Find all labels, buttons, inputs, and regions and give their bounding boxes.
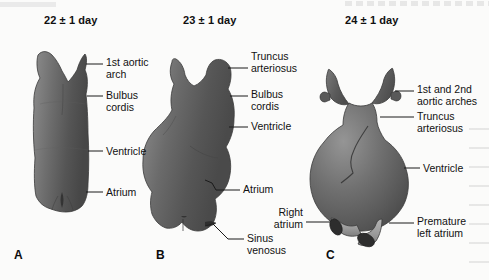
label-premature-left-atrium: Premature left atrium — [417, 216, 466, 239]
label-bulbus-cordis-b: Bulbus cordis — [251, 89, 283, 112]
leader-b-sinus-venosus — [213, 224, 244, 239]
label-bulbus-cordis-a: Bulbus cordis — [106, 90, 138, 113]
leader-b-atrium — [205, 180, 240, 190]
label-atrium-a: Atrium — [106, 187, 136, 199]
embryonic-heart-development-figure: 22 ± 1 day A 1st aortic arch Bulbus cord… — [0, 0, 489, 280]
label-ventricle-b: Ventricle — [251, 121, 291, 133]
panel-a-letter: A — [14, 248, 23, 262]
panel-b-artwork — [143, 59, 234, 231]
label-right-atrium: Right atrium — [251, 207, 303, 230]
heart-illustrations — [0, 0, 489, 280]
scan-artifact-right-column — [469, 120, 489, 275]
label-sinus-venosus-b: Sinus venosus — [247, 233, 286, 256]
panel-b-letter: B — [156, 248, 165, 262]
label-1st-and-2nd-aortic-arches: 1st and 2nd aortic arches — [417, 84, 477, 107]
panel-a-title: 22 ± 1 day — [44, 14, 98, 26]
label-truncus-arteriosus-b: Truncus arteriosus — [251, 51, 297, 74]
panel-c-artwork — [310, 68, 408, 249]
scan-artifact-top-left — [0, 2, 56, 7]
label-ventricle-a: Ventricle — [106, 146, 146, 158]
panel-b-title: 23 ± 1 day — [183, 14, 237, 26]
label-truncus-arteriosus-c: Truncus arteriosus — [417, 111, 463, 134]
panel-a-artwork — [33, 52, 88, 212]
panel-c-letter: C — [326, 248, 335, 262]
label-1st-aortic-arch: 1st aortic arch — [106, 57, 149, 80]
panel-c-title: 24 ± 1 day — [345, 14, 399, 26]
label-ventricle-c: Ventricle — [423, 163, 463, 175]
label-atrium-b: Atrium — [243, 184, 273, 196]
scan-artifact-top-right — [345, 1, 489, 6]
